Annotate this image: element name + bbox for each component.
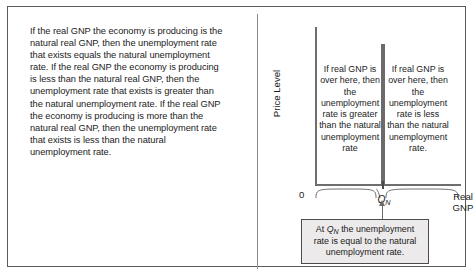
callout-symbol: Q bbox=[327, 224, 334, 234]
explanation-paragraph: If the real GNP the economy is producing… bbox=[30, 25, 225, 158]
callout-box: At QN the unemployment rate is equal to … bbox=[301, 219, 429, 264]
y-axis-label: Price Level bbox=[271, 54, 282, 134]
explanation-panel: If the real GNP the economy is producing… bbox=[30, 25, 225, 158]
callout-text: At QN the unemployment rate is equal to … bbox=[302, 224, 428, 259]
origin-label: 0 bbox=[299, 189, 304, 200]
y-axis-line bbox=[315, 27, 317, 185]
region-right-annotation: If real GNP is over here, then the unemp… bbox=[387, 64, 449, 154]
lras-vertical-line bbox=[381, 44, 385, 185]
callout-subscript: N bbox=[334, 228, 339, 235]
x-axis-label: Real GNP bbox=[443, 191, 475, 214]
figure-frame: If the real GNP the economy is producing… bbox=[7, 6, 466, 267]
qn-tick-mark bbox=[382, 181, 384, 189]
chart-panel: Price Level 0 If real GNP is over here, … bbox=[257, 13, 475, 276]
region-left-annotation: If real GNP is over here, then the unemp… bbox=[319, 64, 381, 154]
qn-subscript: N bbox=[385, 198, 390, 207]
callout-prefix: At bbox=[316, 224, 327, 234]
